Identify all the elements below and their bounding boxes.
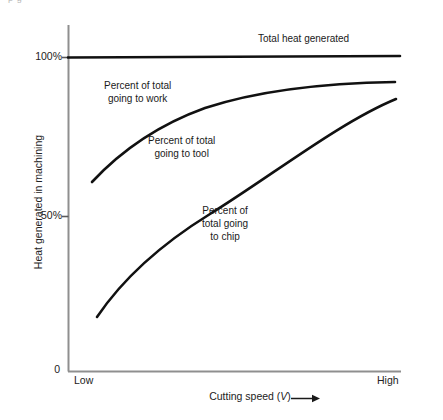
annotation-percent-to-chip: Percent of total going to chip <box>202 204 248 243</box>
annotation-percent-to-chip-line3: to chip <box>202 230 248 243</box>
annotation-percent-to-chip-line2: total going <box>202 217 248 230</box>
annotation-total-heat-text: Total heat generated <box>258 33 349 44</box>
annotation-percent-to-work-line1: Percent of total <box>104 79 171 92</box>
curve-total-heat <box>68 56 400 58</box>
x-edge-label-low: Low <box>74 374 93 386</box>
annotation-percent-to-work: Percent of total going to work <box>104 79 171 105</box>
x-axis-title-close: ) <box>287 390 291 402</box>
chart-figure: p g Heat generated in machining 100% 50%… <box>0 0 443 420</box>
x-axis-title-main: Cutting speed ( <box>209 390 280 402</box>
y-tick-label-50: 50% <box>41 209 62 221</box>
annotation-percent-to-work-line2: going to work <box>104 92 171 105</box>
annotation-percent-to-chip-line1: Percent of <box>202 204 248 217</box>
annotation-percent-to-tool-line2: going to tool <box>148 147 215 160</box>
y-tick-label-0: 0 <box>54 363 60 375</box>
annotation-percent-to-tool: Percent of total going to tool <box>148 134 215 160</box>
x-axis-title: Cutting speed (V) <box>150 390 350 402</box>
y-axis-title: Heat generated in machining <box>32 102 44 302</box>
annotation-percent-to-tool-line1: Percent of total <box>148 134 215 147</box>
x-edge-label-high: High <box>377 374 399 386</box>
y-tick-label-100: 100% <box>35 50 62 62</box>
annotation-total-heat: Total heat generated <box>258 32 349 45</box>
